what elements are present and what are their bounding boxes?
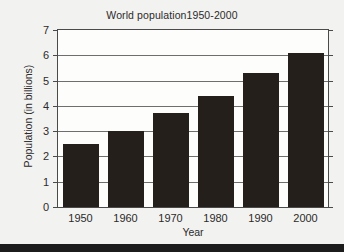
y-axis-tick-label: 7 [43, 24, 49, 36]
bar [198, 96, 234, 207]
bar [153, 113, 189, 207]
y-axis-tick-right [328, 182, 333, 183]
y-axis-tick-label: 5 [43, 75, 49, 87]
y-axis-tick-right [328, 81, 333, 82]
y-axis-title: Population (in billions) [22, 26, 34, 206]
y-axis-tick-right [328, 106, 333, 107]
bar [243, 73, 279, 207]
bars-layer [58, 30, 328, 207]
x-axis-tick-label: 1980 [203, 212, 227, 224]
chart-figure: World population1950-2000 Population (in… [0, 0, 344, 244]
x-axis-title: Year [57, 226, 329, 238]
bar [288, 53, 324, 207]
x-axis-tick-label: 1950 [68, 212, 92, 224]
y-axis-tick-right [328, 156, 333, 157]
y-axis-tick-label: 3 [43, 125, 49, 137]
x-axis-tick-label: 1990 [248, 212, 272, 224]
y-axis-tick-right [328, 55, 333, 56]
y-axis-tick-label: 0 [43, 201, 49, 213]
y-axis-tick-label: 2 [43, 150, 49, 162]
x-axis-tick-label: 1960 [113, 212, 137, 224]
bar [108, 131, 144, 207]
y-axis-tick-right [328, 131, 333, 132]
y-axis-tick-label: 4 [43, 100, 49, 112]
bar [63, 144, 99, 207]
y-axis-tick-label: 6 [43, 49, 49, 61]
x-axis-tick-label: 1970 [158, 212, 182, 224]
plot-area: 01234567 195019601970198019902000 [57, 29, 329, 208]
y-axis-tick-label: 1 [43, 176, 49, 188]
y-axis-tick-right [328, 207, 333, 208]
x-axis-tick-label: 2000 [293, 212, 317, 224]
y-axis-tick [53, 207, 58, 208]
y-axis-tick-right [328, 30, 333, 31]
bottom-strip [0, 244, 344, 252]
chart-title: World population1950-2000 [0, 9, 344, 21]
